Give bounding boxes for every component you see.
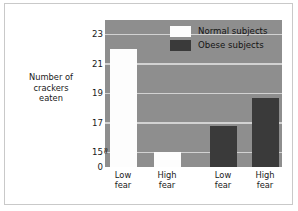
y-tick-label: 23: [81, 30, 103, 39]
y-tick-label: 0: [81, 163, 103, 172]
x-tick-label: Low fear: [201, 170, 245, 190]
bar: [210, 126, 237, 167]
plot-area: Normal subjects Obese subjects: [105, 20, 282, 167]
bar: [154, 152, 181, 167]
legend: Normal subjects Obese subjects: [170, 26, 267, 54]
axis-break-symbol: ≈: [101, 143, 110, 155]
bar: [252, 98, 279, 167]
legend-label-obese: Obese subjects: [198, 41, 264, 50]
x-tick-label: High fear: [243, 170, 287, 190]
legend-item-normal: Normal subjects: [170, 26, 267, 37]
y-axis-title: Number of crackers eaten: [15, 72, 87, 104]
y-tick-label: 21: [81, 60, 103, 69]
y-tick-label: 19: [81, 89, 103, 98]
legend-label-normal: Normal subjects: [198, 27, 267, 36]
legend-swatch-obese: [170, 40, 191, 51]
bar-chart-figure: Number of crackers eaten Normal subjects…: [5, 4, 292, 204]
legend-swatch-normal: [170, 26, 191, 37]
y-tick-label: 17: [81, 119, 103, 128]
x-tick-label: High fear: [145, 170, 189, 190]
bar: [110, 49, 137, 167]
x-tick-label: Low fear: [101, 170, 145, 190]
chart-card: Number of crackers eaten Normal subjects…: [4, 3, 293, 205]
legend-item-obese: Obese subjects: [170, 40, 267, 51]
